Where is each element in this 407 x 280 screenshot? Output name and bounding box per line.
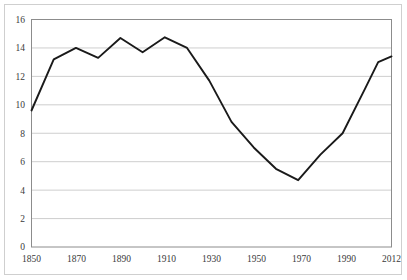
x-axis-tick-label: 1930	[202, 254, 221, 264]
y-axis-tick-label: 0	[20, 242, 25, 252]
x-axis-tick-label: 1910	[157, 254, 176, 264]
x-axis-tick-labels: 185018701890191019301950197019902012	[22, 254, 401, 264]
y-axis-tick-labels: 0246810121416	[16, 15, 26, 253]
y-axis-tick-label: 14	[16, 43, 26, 53]
y-axis-tick-label: 6	[20, 157, 25, 167]
x-axis-tick-label: 1950	[247, 254, 266, 264]
y-axis-tick-label: 4	[20, 186, 25, 196]
y-axis-tick-label: 16	[16, 15, 26, 25]
x-axis-tick-label: 1870	[67, 254, 86, 264]
x-axis-tick-label: 1970	[292, 254, 311, 264]
x-axis-tick-label: 1990	[337, 254, 356, 264]
gridlines-group	[32, 48, 392, 219]
y-axis-tick-label: 8	[20, 129, 25, 139]
data-series-line	[32, 37, 392, 180]
x-axis-tick-label: 1850	[22, 254, 41, 264]
y-axis-tick-label: 12	[16, 72, 26, 82]
y-axis-tick-label: 10	[16, 100, 26, 110]
x-axis-tick-label: 1890	[112, 254, 131, 264]
chart-figure: 0246810121416 18501870189019101930195019…	[0, 0, 407, 280]
x-axis-tick-label: 2012	[382, 254, 401, 264]
line-chart: 0246810121416 18501870189019101930195019…	[0, 0, 407, 280]
y-axis-tick-label: 2	[20, 214, 25, 224]
